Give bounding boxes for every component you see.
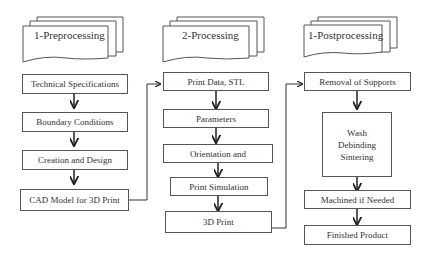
column-header-preprocessing: 1-Preprocessing [34,29,105,41]
step-orientation: Orientation and [163,144,273,163]
step-finished-product: Finished Product [304,225,411,245]
step-print-data-stl: Print Data, STL [163,72,269,91]
step-debinding-label: Debinding [338,139,376,151]
step-technical-specifications: Technical Specifications [22,74,128,94]
step-removal-of-supports: Removal of Supports [304,72,411,91]
step-3d-print: 3D Print [165,211,272,233]
step-parameters: Parameters [163,109,269,128]
step-wash-debinding-sintering: Wash Debinding Sintering [322,112,392,177]
column-header-processing: 2-Processing [182,29,239,41]
column-header-postprocessing: 1-Postprocessing [308,29,383,41]
step-machined-if-needed: Machined if Needed [304,190,411,209]
step-wash-label: Wash [347,127,367,139]
step-sintering-label: Sintering [341,151,374,163]
step-print-simulation: Print Simulation [170,177,268,196]
step-creation-and-design: Creation and Design [22,150,128,170]
step-boundary-conditions: Boundary Conditions [22,112,128,132]
step-cad-model: CAD Model for 3D Print [20,189,129,211]
